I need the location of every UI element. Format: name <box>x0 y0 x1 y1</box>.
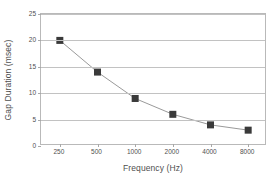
y-tick-label: 0 <box>16 142 36 149</box>
y-tick-mark <box>38 67 41 68</box>
x-tick-label: 250 <box>53 148 64 156</box>
x-tick-label: 4000 <box>202 148 216 156</box>
x-tick-mark <box>173 144 174 147</box>
x-tick-mark <box>60 144 61 147</box>
x-tick-label: 8000 <box>240 148 254 156</box>
data-point-marker <box>132 95 139 102</box>
x-tick-label: 500 <box>91 148 102 156</box>
gridline <box>41 14 265 15</box>
x-tick-mark <box>98 144 99 147</box>
plot-area <box>40 13 266 145</box>
data-point-marker <box>169 111 176 118</box>
y-tick-label: 20 <box>16 36 36 43</box>
x-axis-title: Frequency (Hz) <box>40 163 266 173</box>
y-axis-tick-labels: 0510152025 <box>18 13 38 145</box>
gap-duration-chart: Gap Duration (msec) 0510152025 250500100… <box>0 0 280 195</box>
gridline <box>41 40 265 41</box>
x-axis-tick-labels: 2505001000200040008000 <box>40 148 266 160</box>
data-series-gap-duration <box>41 14 267 146</box>
y-axis-title-label: Gap Duration (msec) <box>3 40 13 121</box>
x-tick-mark <box>135 144 136 147</box>
series-line <box>60 40 248 130</box>
y-axis-title: Gap Duration (msec) <box>0 0 16 160</box>
data-point-marker <box>207 121 214 128</box>
x-axis-title-label: Frequency (Hz) <box>123 163 183 173</box>
x-tick-label: 2000 <box>165 148 179 156</box>
y-tick-mark <box>38 93 41 94</box>
gridline <box>41 120 265 121</box>
y-tick-label: 10 <box>16 89 36 96</box>
x-tick-label: 1000 <box>127 148 141 156</box>
y-tick-mark <box>38 40 41 41</box>
gridline <box>41 93 265 94</box>
gridline <box>41 67 265 68</box>
y-tick-mark <box>38 14 41 15</box>
data-point-marker <box>94 69 101 76</box>
y-tick-label: 5 <box>16 115 36 122</box>
x-tick-mark <box>248 144 249 147</box>
y-tick-mark <box>38 120 41 121</box>
y-tick-mark <box>38 146 41 147</box>
y-tick-label: 15 <box>16 62 36 69</box>
data-point-marker <box>245 127 252 134</box>
y-tick-label: 25 <box>16 10 36 17</box>
x-tick-mark <box>211 144 212 147</box>
